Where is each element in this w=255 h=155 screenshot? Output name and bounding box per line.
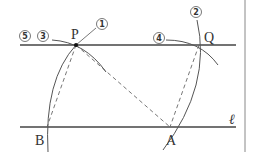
svg-text:1: 1: [99, 20, 105, 29]
svg-text:5: 5: [22, 32, 28, 41]
label-Q: Q: [204, 30, 214, 45]
dashed-PB: [47, 45, 76, 127]
svg-text:2: 2: [193, 8, 199, 17]
dashed-PA: [76, 45, 170, 127]
point-P-dot: [74, 43, 78, 47]
leader-1: [76, 28, 96, 45]
svg-text:4: 4: [156, 34, 162, 43]
arc-2: [163, 20, 201, 150]
construction-diagram: P Q B A ℓ 5 3 1 2 4: [0, 0, 255, 155]
step-3-badge: 3: [38, 31, 49, 42]
step-5-badge: 5: [20, 31, 31, 42]
svg-text:3: 3: [40, 32, 46, 41]
arc-5: [48, 45, 76, 152]
step-4-badge: 4: [154, 33, 165, 44]
label-line-l: ℓ: [229, 111, 235, 127]
step-1-badge: 1: [97, 19, 108, 30]
label-A: A: [166, 133, 177, 148]
label-P: P: [71, 27, 79, 42]
step-2-badge: 2: [191, 7, 202, 18]
label-B: B: [35, 133, 44, 148]
